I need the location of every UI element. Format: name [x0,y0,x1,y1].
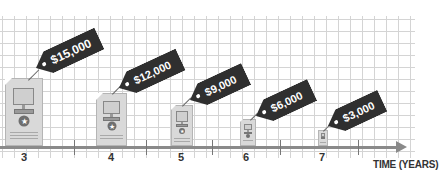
x-axis-line [0,146,398,149]
tag-hole-icon [195,94,200,99]
computer-tower-icon-year-3: ★ [5,78,43,146]
star-badge-icon: ★ [179,128,185,134]
x-tick-label: 4 [101,151,121,163]
x-tick-label: 5 [171,151,191,163]
tag-hole-icon [333,120,338,125]
axis-tick [146,140,147,155]
computer-tower-icon-year-6 [240,119,256,146]
star-badge-icon [246,134,250,138]
x-tick-label: 6 [236,151,256,163]
x-tick-label: 7 [312,151,332,163]
tag-hole-icon [124,82,129,87]
computer-tower-icon-year-7 [318,130,328,146]
axis-tick [74,140,75,155]
computer-tower-icon-year-5: ★ [171,105,193,146]
axis-tick [280,140,281,155]
axis-tick [212,140,213,155]
x-tick-label: 3 [14,151,34,163]
axis-tick [358,140,359,155]
tag-hole-icon [41,62,46,67]
axis-arrow-icon [396,141,407,153]
computer-tower-icon-year-4: ★ [96,93,127,146]
tag-hole-icon [261,110,266,115]
depreciation-chart: ★ ★ ★ $15,000 $12,000 $9,000 $6,000 [0,0,448,177]
star-badge-icon: ★ [19,115,30,126]
star-badge-icon: ★ [107,122,116,131]
x-axis-title: TIME (YEARS) [373,159,438,170]
